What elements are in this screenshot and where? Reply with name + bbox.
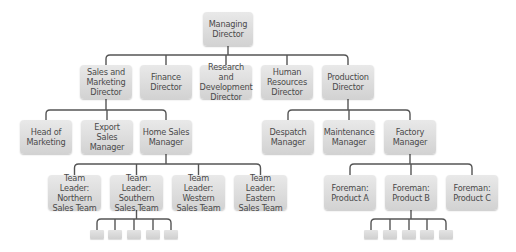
org-node-fd: FinanceDirector xyxy=(140,65,192,99)
org-node-label: Head ofMarketing xyxy=(26,127,65,147)
org-node-md: ManagingDirector xyxy=(203,12,253,46)
unlabeled-subordinate-box xyxy=(90,230,104,239)
org-node-mm: MaintenanceManager xyxy=(323,120,375,154)
org-node-label: Team Leader:WesternSales Team xyxy=(174,173,223,213)
org-node-smd: Sales andMarketingDirector xyxy=(80,65,132,99)
org-node-label: FinanceDirector xyxy=(150,72,181,92)
org-chart: ManagingDirectorSales andMarketingDirect… xyxy=(0,0,516,252)
org-node-hrd: HumanResourcesDirector xyxy=(261,65,313,99)
unlabeled-subordinate-box xyxy=(364,230,378,239)
org-node-label: HumanResourcesDirector xyxy=(267,67,307,97)
unlabeled-subordinate-box xyxy=(146,230,160,239)
org-node-label: MaintenanceManager xyxy=(324,127,375,147)
org-node-label: Foreman:Product C xyxy=(453,183,491,203)
unlabeled-subordinate-box xyxy=(164,230,178,239)
unlabeled-subordinate-box xyxy=(420,230,434,239)
org-node-label: DespatchManager xyxy=(269,127,306,147)
org-node-tln: Team Leader:NorthernSales Team xyxy=(48,175,101,210)
org-node-dm: DespatchManager xyxy=(262,120,314,154)
org-node-fm: FactoryManager xyxy=(384,120,436,154)
org-node-label: Team Leader:EasternSales Team xyxy=(236,173,285,213)
org-node-label: Home SalesManager xyxy=(143,127,190,147)
org-node-label: ProductionDirector xyxy=(327,72,369,92)
org-node-tle: Team Leader:EasternSales Team xyxy=(234,175,287,210)
org-node-label: Research andDevelopmentDirector xyxy=(200,62,253,102)
org-node-tlw: Team Leader:WesternSales Team xyxy=(172,175,225,210)
unlabeled-subordinate-box xyxy=(127,230,141,239)
org-node-rdd: Research andDevelopmentDirector xyxy=(200,65,252,99)
org-node-hom: Head ofMarketing xyxy=(20,120,72,154)
org-node-label: Team Leader:SouthernSales Team xyxy=(112,173,161,213)
org-node-label: Team Leader:NorthernSales Team xyxy=(50,173,99,213)
org-node-label: Foreman:Product B xyxy=(392,183,430,203)
unlabeled-subordinate-box xyxy=(108,230,122,239)
unlabeled-subordinate-box xyxy=(383,230,397,239)
org-node-fpb: Foreman:Product B xyxy=(385,175,437,210)
unlabeled-subordinate-box xyxy=(439,230,453,239)
org-node-label: Export SalesManager xyxy=(83,122,131,152)
org-node-label: Foreman:Product A xyxy=(331,183,369,203)
org-node-label: Sales andMarketingDirector xyxy=(86,67,125,97)
org-node-hsm: Home SalesManager xyxy=(140,120,192,154)
connector-lines xyxy=(0,0,516,252)
org-node-fpc: Foreman:Product C xyxy=(446,175,498,210)
org-node-fpa: Foreman:Product A xyxy=(324,175,376,210)
org-node-label: ManagingDirector xyxy=(209,19,248,39)
org-node-pd: ProductionDirector xyxy=(322,65,374,99)
org-node-tls: Team Leader:SouthernSales Team xyxy=(110,175,163,210)
unlabeled-subordinate-box xyxy=(402,230,416,239)
org-node-esm: Export SalesManager xyxy=(81,120,133,154)
org-node-label: FactoryManager xyxy=(393,127,428,147)
